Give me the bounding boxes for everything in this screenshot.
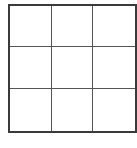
grid-cell-2-1[interactable] — [10, 47, 52, 89]
grid-cell-1-1[interactable] — [10, 6, 52, 47]
grid-cell-3-3[interactable] — [93, 89, 135, 131]
grid-cell-2-3[interactable] — [93, 47, 135, 89]
grid-cell-3-2[interactable] — [52, 89, 93, 131]
grid-cell-3-1[interactable] — [10, 89, 52, 131]
grid-3x3 — [8, 4, 137, 133]
grid-cell-2-2[interactable] — [52, 47, 93, 89]
grid-cell-1-2[interactable] — [52, 6, 93, 47]
grid-cell-1-3[interactable] — [93, 6, 135, 47]
